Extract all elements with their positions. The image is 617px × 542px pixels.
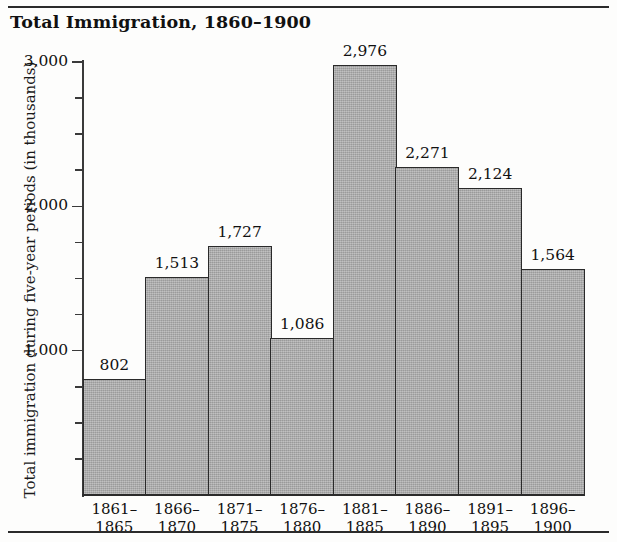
x-axis-tick-label-line: 1880 (271, 518, 334, 536)
bar-value-label: 802 (83, 356, 146, 374)
y-axis-title-container: Total immigration during five-year perio… (0, 60, 28, 500)
bar (333, 65, 397, 495)
x-axis-tick-label-line: 1891– (459, 500, 522, 518)
x-axis-tick-label-line: 1871– (208, 500, 271, 518)
x-axis-tick-label-line: 1896– (521, 500, 584, 518)
bottom-divider-rule (8, 531, 609, 533)
y-axis-minor-tick (75, 133, 83, 135)
y-axis-major-tick (72, 206, 83, 208)
y-axis-major-tick (72, 350, 83, 352)
bar-value-label: 1,727 (208, 223, 271, 241)
bar-value-label: 2,976 (334, 42, 397, 60)
bar (395, 167, 459, 495)
bar (83, 379, 146, 495)
y-axis-major-tick (72, 61, 83, 63)
x-axis-tick-label-line: 1885 (334, 518, 397, 536)
y-axis-minor-tick (75, 458, 83, 460)
x-axis-tick-label-line: 1865 (83, 518, 146, 536)
y-axis-minor-tick (75, 314, 83, 316)
x-axis-tick-label-line: 1861– (83, 500, 146, 518)
y-axis-minor-tick (75, 97, 83, 99)
x-axis-tick-label-line: 1875 (208, 518, 271, 536)
plot-area (83, 55, 584, 495)
bar-value-label: 1,513 (146, 254, 209, 272)
bar (145, 277, 209, 495)
chart-title: Total Immigration, 1860–1900 (10, 12, 311, 32)
x-axis-tick-label-line: 1900 (521, 518, 584, 536)
y-axis-tick-label: 2,000 (0, 196, 68, 214)
x-axis-tick-label-line: 1870 (146, 518, 209, 536)
y-axis-tick-label: 3,000 (0, 52, 68, 70)
bar-value-label: 1,564 (521, 246, 584, 264)
x-axis-tick-label-line: 1886– (396, 500, 459, 518)
immigration-bar-chart-figure: Total Immigration, 1860–1900 Total immig… (0, 0, 617, 542)
x-axis-tick-label-line: 1876– (271, 500, 334, 518)
bar (521, 269, 585, 495)
bar (458, 188, 522, 495)
y-axis-minor-tick (75, 278, 83, 280)
y-axis-minor-tick (75, 242, 83, 244)
bar-value-label: 2,124 (459, 165, 522, 183)
x-axis-tick-label-line: 1881– (334, 500, 397, 518)
y-axis-minor-tick (75, 422, 83, 424)
y-axis-minor-tick (75, 386, 83, 388)
top-divider-rule (8, 6, 609, 8)
bar-value-label: 2,271 (396, 144, 459, 162)
y-axis-minor-tick (75, 169, 83, 171)
x-axis-tick-label-line: 1890 (396, 518, 459, 536)
bar (208, 246, 272, 495)
x-axis-tick-label-line: 1895 (459, 518, 522, 536)
x-axis-tick-label-line: 1866– (146, 500, 209, 518)
bar (270, 338, 334, 495)
y-axis-tick-label: 1,000 (0, 341, 68, 359)
y-axis-title: Total immigration during five-year perio… (21, 60, 39, 500)
bar-value-label: 1,086 (271, 315, 334, 333)
